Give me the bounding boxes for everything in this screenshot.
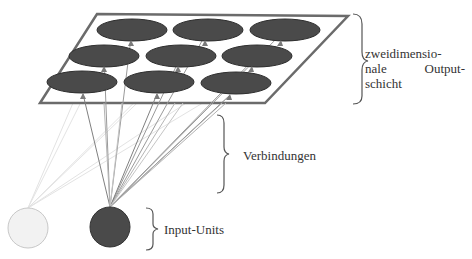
output-node-r1-c0 [69, 45, 139, 67]
output-label-line2-left: nale [365, 61, 387, 76]
output-node-r0-c0 [97, 19, 167, 41]
output-layer-label: zweidimensio- nale Output- schicht [365, 46, 465, 91]
output-label-line3: schicht [365, 76, 465, 91]
output-node-r0-c1 [173, 19, 243, 41]
input-units-label: Input-Units [164, 222, 224, 237]
brace-input-units [146, 208, 158, 250]
output-label-line2: nale Output- [365, 61, 465, 76]
output-node-r0-c2 [250, 19, 320, 41]
output-node-r2-c1 [124, 71, 194, 93]
input-unit-inactive [8, 208, 48, 248]
connections-label: Verbindungen [243, 148, 316, 163]
output-label-line2-right: Output- [425, 61, 465, 76]
output-node-r2-c0 [47, 71, 117, 93]
input-unit-active [90, 207, 130, 247]
output-label-line1: zweidimensio- [365, 46, 465, 61]
kohonen-network-diagram [0, 0, 472, 259]
brace-connections [217, 115, 229, 193]
output-node-r1-c1 [146, 45, 216, 67]
output-node-r1-c2 [222, 45, 292, 67]
active-connections [83, 94, 230, 207]
output-node-r2-c2 [201, 72, 271, 94]
